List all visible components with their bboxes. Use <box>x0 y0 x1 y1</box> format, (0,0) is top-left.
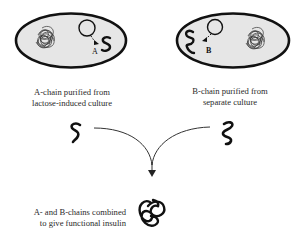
left-caption-line-1: A-chain purified from <box>18 87 126 98</box>
right-b-label: B <box>206 46 212 55</box>
left-caption: A-chain purified from lactose-induced cu… <box>18 87 126 109</box>
right-caption-line-2: separate culture <box>176 97 284 108</box>
result-caption-line-2: to give functional insulin <box>8 218 126 229</box>
combine-arrow <box>94 127 210 177</box>
left-caption-line-2: lactose-induced culture <box>18 98 126 109</box>
purified-a-chain-icon <box>72 124 80 142</box>
purified-b-chain-icon <box>223 122 232 144</box>
result-caption: A- and B-chains combined to give functio… <box>8 207 126 229</box>
left-a-label: A <box>92 47 98 56</box>
left-bacterial-cell: A <box>16 14 126 68</box>
result-caption-line-1: A- and B-chains combined <box>8 207 126 218</box>
right-caption-line-1: B-chain purified from <box>176 86 284 97</box>
insulin-molecule-icon <box>140 200 165 226</box>
right-bacterial-cell: B <box>177 14 289 68</box>
right-caption: B-chain purified from separate culture <box>176 86 284 108</box>
